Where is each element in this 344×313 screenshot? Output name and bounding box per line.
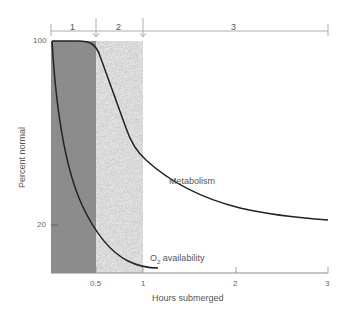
metabolism-label: Metabolism [169, 176, 215, 186]
x-tick-label-0.5: 0.5 [90, 279, 101, 288]
y-axis-label: Percent normal [17, 127, 27, 188]
phase-1-region [51, 41, 96, 273]
o2-suffix: availability [160, 253, 204, 263]
phase-2-label: 2 [116, 22, 121, 32]
x-tick-label-2: 2 [233, 279, 237, 288]
chart-canvas [0, 0, 344, 313]
o2-prefix: O [150, 253, 157, 263]
phase-bracket [51, 18, 328, 37]
y-tick-label-20: 20 [37, 220, 46, 229]
o2-availability-label: O2 availability [150, 253, 204, 265]
y-tick-label-100: 100 [33, 36, 46, 45]
x-tick-label-3: 3 [325, 279, 329, 288]
x-tick-label-1: 1 [141, 279, 145, 288]
phase-3-label: 3 [231, 22, 236, 32]
phase-1-label: 1 [70, 22, 75, 32]
x-axis-label: Hours submerged [152, 293, 224, 303]
